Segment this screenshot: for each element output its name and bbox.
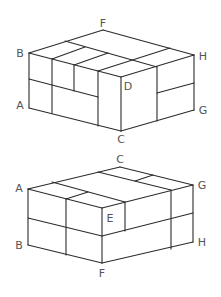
bottom-box-figure: CAGEBHF xyxy=(15,153,206,280)
vertex-label-h: H xyxy=(199,50,207,63)
vertex-label-e: E xyxy=(107,212,114,225)
vertex-label-h: H xyxy=(198,236,206,249)
vertex-label-c: C xyxy=(117,133,125,146)
bottom-box-edge xyxy=(102,213,193,236)
vertex-label-f: F xyxy=(99,267,105,280)
bottom-box-edge xyxy=(28,167,120,189)
top-box-edge xyxy=(98,48,170,71)
vertex-label-c: C xyxy=(116,153,124,166)
bottom-box-edge xyxy=(66,192,88,199)
bottom-box-edge xyxy=(28,218,102,236)
top-box-edge xyxy=(52,47,85,59)
vertex-label-g: G xyxy=(199,104,208,117)
vertex-label-g: G xyxy=(198,179,207,192)
cube-diagram: FBHADGC CAGEBHF xyxy=(0,0,221,297)
bottom-box-edge xyxy=(120,167,193,185)
vertex-label-a: A xyxy=(15,182,23,195)
bottom-box-edge xyxy=(28,189,102,208)
bottom-box-edge xyxy=(102,242,193,263)
bottom-box-edge xyxy=(28,245,102,263)
bottom-box-edge xyxy=(102,185,193,208)
bottom-box-edge xyxy=(135,175,153,181)
top-box-edge xyxy=(103,30,194,55)
top-box-figure: FBHADGC xyxy=(16,17,207,146)
top-box-edge xyxy=(157,83,194,93)
top-box-edge xyxy=(29,108,121,131)
vertex-label-b: B xyxy=(16,47,24,60)
vertex-label-b: B xyxy=(15,239,23,252)
vertex-label-a: A xyxy=(16,99,24,112)
top-box-edge xyxy=(74,53,108,65)
vertex-label-d: D xyxy=(124,80,132,93)
top-box-edge xyxy=(29,79,98,97)
vertex-label-f: F xyxy=(100,17,106,30)
